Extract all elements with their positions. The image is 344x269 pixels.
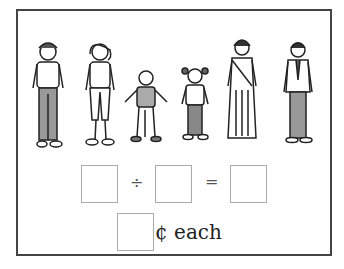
family-illustration	[18, 30, 318, 155]
person-man-suit	[284, 43, 312, 143]
person-woman	[86, 44, 114, 145]
equals-sign: =	[205, 172, 218, 191]
person-girl	[182, 68, 208, 140]
answer-box[interactable]	[117, 213, 154, 251]
person-boy	[125, 71, 167, 142]
divide-sign: ÷	[130, 173, 143, 192]
cents-each-label: ¢ each	[155, 220, 222, 244]
quotient-box[interactable]	[230, 165, 267, 203]
dividend-box[interactable]	[81, 165, 118, 203]
person-woman-sari	[228, 40, 256, 138]
person-man	[33, 43, 63, 147]
divisor-box[interactable]	[155, 165, 192, 203]
